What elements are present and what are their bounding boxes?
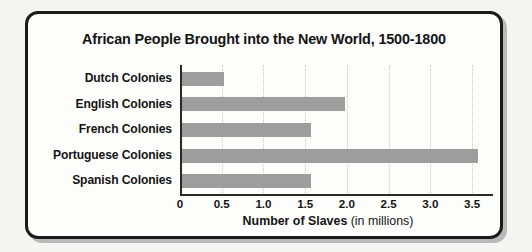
x-tick-label: 2.5 xyxy=(381,197,397,210)
category-label: Portuguese Colonies xyxy=(53,143,172,169)
bar-row xyxy=(182,117,311,143)
x-tick-label: 3.0 xyxy=(422,197,438,210)
x-axis-tick-labels: 00.51.01.52.02.53.03.5 xyxy=(180,197,503,213)
category-label: Dutch Colonies xyxy=(85,66,172,92)
x-tick-label: 0.5 xyxy=(214,197,230,210)
x-tick-label: 1.5 xyxy=(297,197,313,210)
category-label: French Colonies xyxy=(79,117,172,143)
bar-row xyxy=(182,92,345,118)
bar-row xyxy=(182,66,224,92)
category-axis-labels: Dutch ColoniesEnglish ColoniesFrench Col… xyxy=(28,65,176,195)
x-axis-title-main: Number of Slaves xyxy=(243,214,348,228)
bar xyxy=(182,123,311,137)
bar xyxy=(182,149,478,163)
plot-area xyxy=(180,65,503,195)
bar xyxy=(182,72,224,86)
x-axis-title: Number of Slaves (in millions) xyxy=(168,214,488,228)
x-tick-label: 0 xyxy=(177,197,183,210)
x-tick-label: 2.0 xyxy=(339,197,355,210)
chart-title: African People Brought into the New Worl… xyxy=(28,31,500,47)
category-label: English Colonies xyxy=(75,92,172,118)
bar-row xyxy=(182,168,311,194)
chart-frame: African People Brought into the New Worl… xyxy=(25,11,503,239)
x-axis-title-unit: (in millions) xyxy=(347,214,413,228)
x-tick-label: 1.0 xyxy=(255,197,271,210)
figure-page: African People Brought into the New Worl… xyxy=(0,0,532,252)
category-label: Spanish Colonies xyxy=(72,168,172,194)
x-tick-label: 3.5 xyxy=(464,197,480,210)
bar-series xyxy=(182,65,503,195)
bar xyxy=(182,174,311,188)
bar xyxy=(182,97,345,111)
bar-row xyxy=(182,143,478,169)
